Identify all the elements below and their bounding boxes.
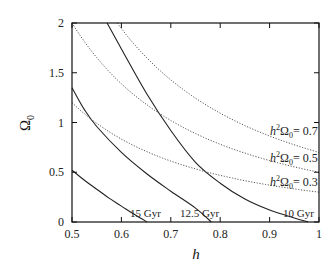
y-tick-label: 0 bbox=[58, 215, 64, 229]
y-axis-label: Ω0 bbox=[17, 115, 36, 131]
annotation-h2omega-0-5: h2Ω0= 0.5 bbox=[270, 150, 318, 167]
x-tick-label: 0.9 bbox=[262, 227, 277, 241]
annotation-12-5gyr: 12.5 Gyr bbox=[180, 207, 219, 219]
x-tick-label: 0.8 bbox=[213, 227, 228, 241]
y-tick-label: 1.5 bbox=[49, 66, 64, 80]
plot-frame bbox=[72, 23, 319, 222]
annotation-h2omega-0-3: h2Ω0= 0.3 bbox=[270, 174, 318, 191]
y-tick-label: 0.5 bbox=[49, 165, 64, 179]
axis-ticks bbox=[72, 23, 319, 222]
annotation-10gyr: 10 Gyr bbox=[283, 207, 314, 219]
y-tick-label: 2 bbox=[58, 16, 64, 30]
annotation-15gyr: 15 Gyr bbox=[130, 207, 161, 219]
x-tick-label: 0.7 bbox=[163, 227, 178, 241]
curve-12-5-gyr bbox=[72, 88, 211, 222]
x-tick-label: 0.5 bbox=[65, 227, 80, 241]
x-tick-label: 0.6 bbox=[114, 227, 129, 241]
chart: 0.50.60.70.80.9100.511.52 h Ω0 15 Gyr 12… bbox=[0, 0, 336, 269]
annotation-h2omega-0-7: h2Ω0= 0.7 bbox=[270, 123, 318, 140]
plot-curves bbox=[72, 23, 319, 222]
x-axis-label: h bbox=[192, 246, 200, 262]
y-tick-label: 1 bbox=[58, 116, 64, 130]
svg-text:Ω0: Ω0 bbox=[17, 115, 36, 131]
x-tick-label: 1 bbox=[316, 227, 322, 241]
curve-h-2-0-0-5 bbox=[72, 23, 319, 172]
